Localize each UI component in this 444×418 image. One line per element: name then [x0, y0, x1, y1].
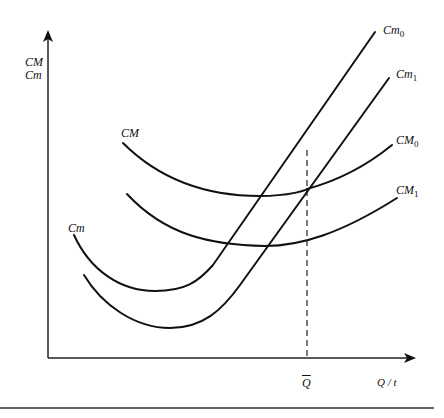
curve-CM1 — [127, 194, 397, 246]
y-axis-label-CM: CM — [25, 56, 43, 68]
curve-label-CM0-text: CM — [396, 133, 414, 147]
curve-label-CM1-sub: 1 — [414, 189, 419, 199]
curve-label-Cm1-text: Cm — [396, 67, 413, 81]
curve-label-CM1: CM1 — [396, 184, 419, 199]
curve-label-Cm0-text: Cm — [383, 23, 400, 37]
curve-label-Cm1: Cm1 — [396, 68, 417, 83]
q-bar-label: Q — [302, 377, 311, 389]
curve-label-CM: CM — [121, 127, 139, 139]
curve-label-Cm0-sub: 0 — [400, 29, 405, 39]
x-axis-label: Q / t — [377, 377, 397, 388]
curve-label-CM1-text: CM — [396, 183, 414, 197]
curve-CM0 — [123, 143, 392, 196]
curve-label-Cm0: Cm0 — [383, 24, 404, 39]
cost-curves-diagram — [0, 0, 444, 418]
curve-label-Cm1-sub: 1 — [413, 73, 418, 83]
y-axis-label-Cm: Cm — [25, 69, 42, 81]
curve-Cm1 — [84, 78, 389, 328]
curve-label-CM0: CM0 — [396, 134, 419, 149]
curve-label-CM0-sub: 0 — [414, 139, 419, 149]
curve-label-Cm: Cm — [68, 222, 85, 234]
